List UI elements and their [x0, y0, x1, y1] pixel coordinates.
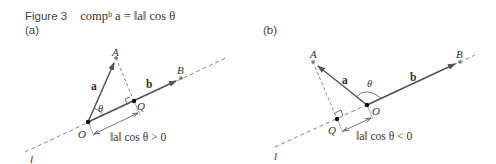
label-vector-b: b: [146, 78, 152, 90]
point-Q: [132, 99, 136, 103]
label-B: B: [456, 48, 463, 60]
point-Q: [335, 117, 339, 121]
panel-a-diagram: A B O Q a b θ ‖a‖ cos θ > 0 l: [25, 46, 228, 164]
label-A: A: [309, 48, 317, 60]
label-vector-b: b: [410, 71, 416, 83]
point-A: [311, 60, 315, 64]
label-measure: ‖a‖ cos θ < 0: [356, 130, 412, 142]
label-Q: Q: [328, 124, 336, 136]
right-angle-marker: [335, 110, 343, 116]
label-theta: θ: [98, 103, 103, 114]
label-vector-a: a: [342, 74, 348, 86]
label-line-l: l: [30, 153, 33, 164]
panel-b-diagram: A B O Q a b θ ‖a‖ cos θ < 0 l: [274, 48, 475, 162]
angle-arc: [356, 92, 381, 98]
point-B: [179, 76, 183, 80]
point-O: [365, 103, 369, 107]
label-A: A: [111, 46, 119, 58]
label-O: O: [78, 128, 86, 140]
label-O: O: [372, 105, 380, 117]
point-B: [458, 60, 462, 64]
projection-diagram: A B O Q a b θ ‖a‖ cos θ > 0 l A B O: [0, 0, 496, 164]
label-Q: Q: [137, 100, 145, 112]
label-theta: θ: [367, 78, 372, 89]
label-B: B: [177, 64, 184, 76]
perpendicular-AQ: [116, 58, 134, 101]
perpendicular-AQ: [313, 62, 337, 119]
label-vector-a: a: [91, 80, 97, 92]
point-O: [86, 120, 90, 124]
label-line-l: l: [274, 150, 277, 162]
label-measure: ‖a‖ cos θ > 0: [110, 131, 166, 143]
